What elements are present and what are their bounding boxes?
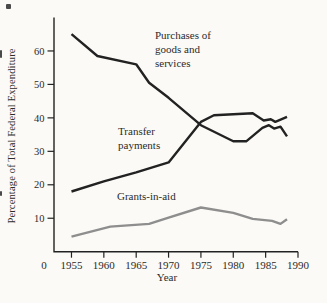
scan-artifact-speck	[6, 4, 11, 9]
x-axis-title: Year	[157, 271, 177, 283]
x-tick-label: 1970	[158, 259, 181, 271]
annotation-purchases: Purchases of goods and services	[155, 29, 211, 70]
federal-expenditure-line-chart: 1020304050601955196019651970197519801985…	[0, 0, 327, 303]
x-tick-label: 1990	[287, 259, 310, 271]
y-tick-label: 60	[34, 46, 45, 57]
y-tick-label: 20	[34, 179, 45, 190]
x-tick-label: 1975	[190, 259, 213, 271]
y-tick-label: 50	[34, 79, 45, 90]
x-tick-label: 1985	[255, 259, 278, 271]
annotation-grants: Grants-in-aid	[117, 190, 176, 204]
x-tick-label: 1955	[60, 259, 83, 271]
y-tick-label: 30	[34, 146, 45, 157]
scan-artifact-edge-mark	[0, 191, 2, 196]
series-line-grants_in_aid	[72, 208, 288, 237]
scan-artifact-edge-mark	[0, 50, 2, 58]
x-tick-label: 1965	[125, 259, 148, 271]
series-line-transfer_payments	[72, 113, 288, 191]
x-tick-label: 1980	[222, 259, 245, 271]
x-tick-label: 1960	[93, 259, 116, 271]
y-tick-label: 40	[34, 113, 45, 124]
origin-tick-label: 0	[41, 259, 47, 271]
y-axis-title: Percentage of Total Federal Expenditure	[6, 48, 17, 223]
y-tick-label: 10	[34, 213, 45, 224]
annotation-transfer: Transfer payments	[118, 125, 160, 153]
